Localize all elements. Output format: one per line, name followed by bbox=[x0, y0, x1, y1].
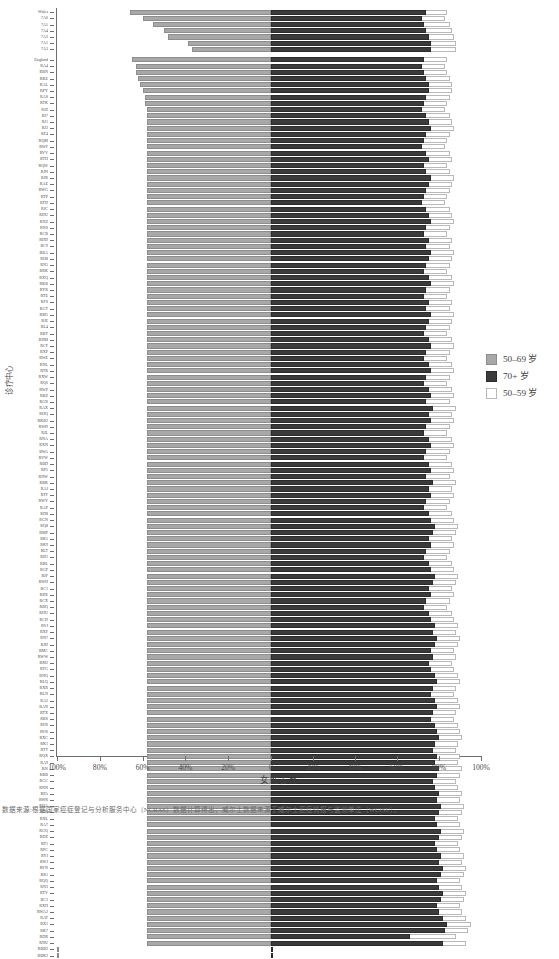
bar-50-69 bbox=[147, 480, 271, 485]
x-tick-mark bbox=[143, 756, 144, 761]
y-tick-mark bbox=[50, 296, 54, 297]
y-tick-mark bbox=[50, 893, 54, 894]
y-tick-mark bbox=[50, 489, 54, 490]
bar-50-69 bbox=[147, 586, 271, 591]
bar-50-69 bbox=[147, 319, 271, 324]
bar-50-69 bbox=[147, 698, 271, 703]
legend-swatch bbox=[486, 371, 497, 382]
bar-70-plus bbox=[271, 941, 443, 946]
bar-70-plus bbox=[271, 735, 439, 740]
x-tick-label: 60% bbox=[377, 763, 417, 772]
y-tick-mark bbox=[50, 744, 54, 745]
bar-70-plus bbox=[271, 443, 431, 448]
bar-70-plus bbox=[271, 368, 431, 373]
x-tick-mark bbox=[185, 756, 186, 761]
bar-50-69 bbox=[147, 872, 271, 877]
bar-50-69 bbox=[147, 455, 271, 460]
bar-50-69 bbox=[147, 281, 271, 286]
bar-50-69 bbox=[147, 486, 271, 491]
y-tick-mark bbox=[50, 533, 54, 534]
bar-50-69 bbox=[147, 381, 271, 386]
y-tick-mark bbox=[50, 875, 54, 876]
bar-50-69 bbox=[147, 505, 271, 510]
bar-50-69 bbox=[147, 717, 271, 722]
bar-70-plus bbox=[271, 393, 431, 398]
bar-50-69 bbox=[147, 878, 271, 883]
bar-50-69 bbox=[147, 748, 271, 753]
y-tick-mark bbox=[50, 97, 54, 98]
y-tick-mark bbox=[50, 551, 54, 552]
bar-50-69 bbox=[147, 350, 271, 355]
y-tick-mark bbox=[50, 837, 54, 838]
y-tick-label: RDZ bbox=[40, 834, 48, 840]
bar-70-plus bbox=[271, 47, 431, 52]
bar-70-plus bbox=[271, 511, 429, 516]
bar-50-69 bbox=[147, 686, 271, 691]
y-tick-label: RBT bbox=[40, 330, 48, 336]
bar-50-69 bbox=[138, 76, 271, 81]
bar-50-69 bbox=[57, 953, 59, 958]
x-tick-label: 20% bbox=[293, 763, 333, 772]
bar-50-69 bbox=[147, 256, 271, 261]
bar-70-plus bbox=[271, 57, 424, 62]
bar-50-69 bbox=[147, 791, 271, 796]
y-tick-mark bbox=[50, 900, 54, 901]
y-tick-mark bbox=[50, 570, 54, 571]
y-tick-mark bbox=[50, 725, 54, 726]
y-tick-label: RC9 bbox=[40, 243, 48, 249]
bar-70-plus bbox=[271, 686, 433, 691]
y-tick-label: RHU bbox=[39, 610, 48, 616]
bar-70-plus bbox=[271, 312, 431, 317]
bar-70-plus bbox=[271, 219, 431, 224]
y-tick-label: RNZ bbox=[40, 218, 48, 224]
y-tick-mark bbox=[50, 601, 54, 602]
y-tick-label: RVN bbox=[40, 865, 48, 871]
bar-50-69 bbox=[147, 729, 271, 734]
bar-70-plus bbox=[271, 741, 435, 746]
bar-70-plus bbox=[271, 835, 439, 840]
bar-70-plus bbox=[271, 841, 435, 846]
y-tick-mark bbox=[50, 234, 54, 235]
y-tick-mark bbox=[50, 215, 54, 216]
bar-70-plus bbox=[271, 325, 426, 330]
y-tick-label: RRK bbox=[40, 268, 48, 274]
y-tick-mark bbox=[50, 203, 54, 204]
y-tick-mark bbox=[50, 862, 54, 863]
y-tick-mark bbox=[50, 166, 54, 167]
bar-50-69 bbox=[136, 70, 271, 75]
y-tick-label: RQ6 bbox=[40, 380, 48, 386]
bar-70-plus bbox=[271, 667, 431, 672]
bar-50-69 bbox=[147, 822, 271, 827]
bar-50-69 bbox=[147, 860, 271, 865]
y-tick-label: RFR bbox=[40, 722, 48, 728]
bar-70-plus bbox=[271, 22, 424, 27]
y-tick-mark bbox=[50, 159, 54, 160]
y-tick-mark bbox=[50, 390, 54, 391]
y-tick-label: RTK bbox=[40, 100, 48, 106]
bar-50-69 bbox=[147, 157, 271, 162]
bar-70-plus bbox=[271, 387, 429, 392]
y-tick-mark bbox=[50, 402, 54, 403]
bar-70-plus bbox=[271, 829, 441, 834]
x-tick-label: 20% bbox=[208, 763, 248, 772]
bar-70-plus bbox=[271, 194, 424, 199]
bar-50-69 bbox=[147, 518, 271, 523]
y-tick-mark bbox=[50, 844, 54, 845]
y-tick-mark bbox=[50, 856, 54, 857]
bar-50-69 bbox=[147, 723, 271, 728]
bar-50-69 bbox=[147, 574, 271, 579]
bar-50-69 bbox=[143, 88, 271, 93]
x-tick-mark bbox=[439, 756, 440, 761]
bar-70-plus bbox=[271, 723, 435, 728]
bar-50-69 bbox=[147, 536, 271, 541]
y-tick-label: RC3 bbox=[40, 896, 48, 902]
y-tick-mark bbox=[50, 197, 54, 198]
bar-50-69 bbox=[147, 462, 271, 467]
y-tick-label: RBK2 bbox=[38, 952, 48, 958]
y-tick-mark bbox=[50, 209, 54, 210]
bar-50-69 bbox=[147, 449, 271, 454]
y-tick-mark bbox=[50, 949, 54, 950]
bar-50-69 bbox=[147, 530, 271, 535]
bar-70-plus bbox=[271, 16, 422, 21]
